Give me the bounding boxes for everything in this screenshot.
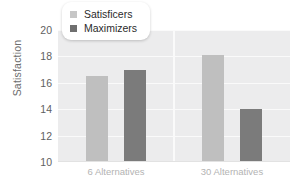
x-axis-tick-label: 6 Alternatives [87,166,144,177]
legend-swatch-icon [70,25,77,32]
x-axis-tick-labels: 6 Alternatives30 Alternatives [58,166,290,184]
y-axis-tick-label: 10 [26,157,52,168]
y-axis-tick-labels: 101214161820 [26,30,52,162]
group-divider [173,30,175,162]
x-axis-tick-label: 30 Alternatives [201,166,263,177]
legend-item-satisficers: Satisficers [70,7,137,21]
x-axis-baseline [58,161,290,162]
chart-legend: Satisficers Maximizers [62,2,150,40]
y-axis-tick-label: 20 [26,25,52,36]
y-axis-tick-label: 18 [26,51,52,62]
y-axis-title: Satisfaction [11,18,23,118]
y-axis-tick-label: 14 [26,104,52,115]
bar-satisficers-1 [202,55,224,162]
bar-maximizers-1 [240,109,262,162]
plot-area [58,30,290,162]
legend-swatch-icon [70,11,77,18]
bar-satisficers-0 [86,76,108,162]
legend-item-label: Satisficers [84,9,132,20]
legend-item-label: Maximizers [84,23,137,34]
y-axis-tick-label: 16 [26,78,52,89]
bar-maximizers-0 [124,70,146,162]
bar-chart: Satisfaction 101214161820 6 Alternatives… [0,0,303,196]
y-axis-tick-label: 12 [26,130,52,141]
legend-item-maximizers: Maximizers [70,21,137,35]
